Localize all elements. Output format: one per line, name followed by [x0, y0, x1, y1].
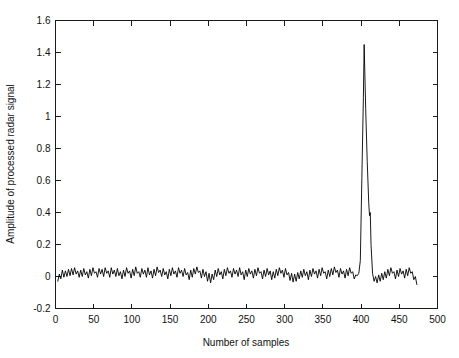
- x-tick-label: 400: [353, 314, 370, 325]
- x-tick-label: 500: [429, 314, 446, 325]
- y-axis-label: Amplitude of processed radar signal: [5, 84, 16, 244]
- x-tick-label: 150: [162, 314, 179, 325]
- x-tick-label: 100: [124, 314, 141, 325]
- x-tick-label: 200: [200, 314, 217, 325]
- y-tick-label: 0.4: [37, 207, 51, 218]
- x-tick-label: 0: [53, 314, 59, 325]
- y-tick-label: -0.2: [33, 303, 51, 314]
- x-tick-label: 50: [88, 314, 100, 325]
- y-tick-label: 1.2: [37, 79, 51, 90]
- y-tick-label: 0: [45, 271, 51, 282]
- y-tick-label: 0.6: [37, 175, 51, 186]
- x-tick-label: 450: [391, 314, 408, 325]
- x-tick-label: 250: [238, 314, 255, 325]
- y-tick-label: 1: [45, 111, 51, 122]
- chart-background: [0, 0, 459, 358]
- radar-signal-chart: 050100150200250300350400450500 -0.200.20…: [0, 0, 459, 358]
- y-tick-label: 0.8: [37, 143, 51, 154]
- x-tick-label: 350: [315, 314, 332, 325]
- x-tick-label: 300: [276, 314, 293, 325]
- y-tick-label: 1.6: [37, 15, 51, 26]
- y-tick-label: 1.4: [37, 47, 51, 58]
- y-tick-label: 0.2: [37, 239, 51, 250]
- x-axis-label: Number of samples: [203, 337, 290, 348]
